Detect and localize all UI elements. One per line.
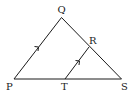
label-q: Q xyxy=(58,4,66,15)
label-s: S xyxy=(121,81,128,92)
triangle-diagram: Q R P T S xyxy=(0,0,140,96)
label-r: R xyxy=(89,35,97,46)
segment-qs xyxy=(62,18,122,80)
label-p: P xyxy=(6,81,13,92)
segment-tr xyxy=(65,47,89,79)
segment-pq xyxy=(14,18,62,80)
label-t: T xyxy=(61,81,68,92)
